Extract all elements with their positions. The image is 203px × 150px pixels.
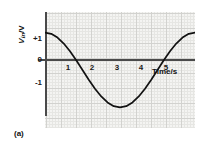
figure-caption: (a) [14, 129, 24, 138]
x-tick-label-3: 3 [111, 64, 123, 72]
y-tick-label-zero: 0 [22, 56, 42, 64]
x-axis-title: Time/s [152, 67, 177, 76]
x-tick-label-2: 2 [86, 64, 98, 72]
x-tick-label-4: 4 [135, 64, 147, 72]
y-axis-unit: /V [17, 25, 26, 33]
figure-container: Vin/V +1 0 -1 1 2 3 4 5 Time/s (a) [0, 0, 203, 150]
y-tick-label-minus1: -1 [22, 79, 42, 87]
x-tick-label-1: 1 [62, 64, 74, 72]
y-tick-label-plus1: +1 [22, 35, 42, 43]
